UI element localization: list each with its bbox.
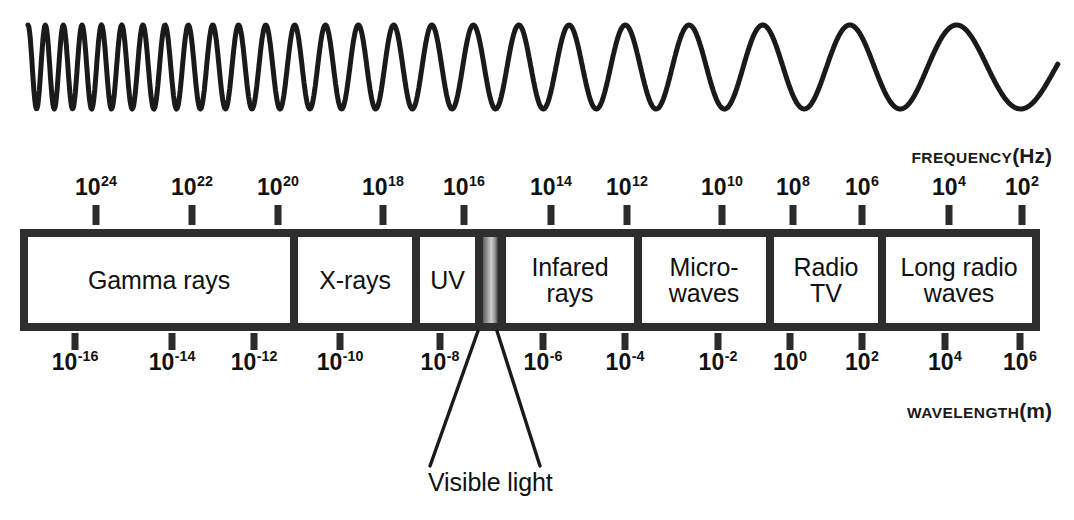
tick-exponent: 4	[954, 348, 962, 364]
wavelength-tick-label: 102	[845, 351, 879, 374]
tick-mantissa: 10	[606, 174, 632, 200]
frequency-tick-mark	[461, 205, 468, 225]
frequency-tick-label: 1016	[443, 176, 485, 199]
tick-mantissa: 10	[257, 174, 283, 200]
tick-mantissa: 10	[75, 174, 101, 200]
frequency-tick-label: 1018	[362, 176, 404, 199]
frequency-tick-mark	[548, 205, 555, 225]
tick-mantissa: 10	[928, 349, 954, 375]
tick-mantissa: 10	[606, 349, 632, 375]
band-long-radio-waves[interactable]: Long radiowaves	[878, 237, 1032, 323]
tick-exponent: -4	[632, 348, 645, 364]
tick-mantissa: 10	[231, 349, 257, 375]
tick-exponent: 14	[556, 173, 572, 189]
frequency-tick-mark	[275, 205, 282, 225]
band-label: Gamma rays	[86, 267, 232, 294]
tick-exponent: -14	[175, 348, 196, 364]
tick-mantissa: 10	[776, 174, 802, 200]
wavelength-tick-mark	[1017, 333, 1024, 350]
wavelength-tick-label: 10-4	[606, 351, 645, 374]
tick-exponent: 16	[469, 173, 485, 189]
wavelength-tick-mark	[942, 333, 949, 350]
tick-mantissa: 10	[52, 349, 78, 375]
frequency-tick-mark	[790, 205, 797, 225]
tick-mantissa: 10	[699, 349, 725, 375]
frequency-tick-label: 104	[932, 176, 966, 199]
band-label: UV	[428, 267, 467, 294]
wavelength-tick-label: 100	[773, 351, 807, 374]
wavelength-tick-mark	[622, 333, 629, 350]
frequency-tick-label: 1022	[171, 176, 213, 199]
tick-exponent: 4	[958, 173, 966, 189]
band-gamma-rays[interactable]: Gamma rays	[28, 237, 290, 323]
band-label: RadioTV	[792, 254, 861, 307]
band-visible-light[interactable]	[475, 237, 498, 323]
tick-mantissa: 10	[530, 174, 556, 200]
tick-exponent: 2	[871, 348, 879, 364]
frequency-tick-mark	[93, 205, 100, 225]
tick-mantissa: 10	[317, 349, 343, 375]
frequency-tick-label: 106	[845, 176, 879, 199]
tick-exponent: -16	[78, 348, 99, 364]
tick-mantissa: 10	[1005, 174, 1031, 200]
wavelength-caption-unit: (m)	[1019, 399, 1052, 422]
tick-mantissa: 10	[421, 349, 447, 375]
wavelength-tick-label: 10-2	[699, 351, 738, 374]
wavelength-tick-label: 10-6	[524, 351, 563, 374]
wavelength-tick-label: 10-16	[52, 351, 99, 374]
wavelength-caption-word: WAVELENGTH	[907, 404, 1019, 421]
frequency-tick-label: 1012	[606, 176, 648, 199]
tick-exponent: 2	[1031, 173, 1039, 189]
tick-mantissa: 10	[701, 174, 727, 200]
wavelength-tick-label: 10-10	[317, 351, 364, 374]
frequency-tick-label: 1020	[257, 176, 299, 199]
wavelength-tick-label: 106	[1003, 351, 1037, 374]
tick-exponent: 0	[799, 348, 807, 364]
tick-exponent: -10	[343, 348, 364, 364]
frequency-axis-caption: FREQUENCY(Hz)	[911, 144, 1052, 168]
frequency-tick-mark	[719, 205, 726, 225]
frequency-tick-mark	[189, 205, 196, 225]
tick-exponent: 18	[388, 173, 404, 189]
tick-exponent: 6	[871, 173, 879, 189]
band-x-rays[interactable]: X-rays	[290, 237, 412, 323]
frequency-tick-label: 108	[776, 176, 810, 199]
visible-light-label: Visible light	[428, 468, 553, 497]
tick-exponent: 10	[727, 173, 743, 189]
frequency-tick-label: 102	[1005, 176, 1039, 199]
tick-mantissa: 10	[524, 349, 550, 375]
frequency-tick-mark	[859, 205, 866, 225]
band-infrared-rays[interactable]: Infaredrays	[498, 237, 634, 323]
tick-exponent: -8	[447, 348, 460, 364]
frequency-tick-label: 1014	[530, 176, 572, 199]
band-ultraviolet[interactable]: UV	[412, 237, 475, 323]
tick-exponent: -2	[725, 348, 738, 364]
frequency-tick-label: 1010	[701, 176, 743, 199]
wavelength-tick-label: 104	[928, 351, 962, 374]
band-radio-tv[interactable]: RadioTV	[766, 237, 878, 323]
frequency-tick-mark	[624, 205, 631, 225]
tick-exponent: 12	[632, 173, 648, 189]
tick-exponent: 22	[197, 173, 213, 189]
band-microwaves[interactable]: Micro-waves	[634, 237, 766, 323]
frequency-tick-label: 1024	[75, 176, 117, 199]
wavelength-tick-label: 10-8	[421, 351, 460, 374]
tick-exponent: 6	[1029, 348, 1037, 364]
wavelength-tick-mark	[787, 333, 794, 350]
frequency-tick-mark	[380, 205, 387, 225]
band-label: X-rays	[317, 267, 393, 294]
tick-mantissa: 10	[443, 174, 469, 200]
tick-mantissa: 10	[1003, 349, 1029, 375]
tick-exponent: 8	[802, 173, 810, 189]
band-label: Long radiowaves	[898, 254, 1019, 307]
figure-canvas: FREQUENCY(Hz) 10241022102010181016101410…	[0, 0, 1074, 520]
tick-mantissa: 10	[149, 349, 175, 375]
spectrum-bar: Gamma raysX-raysUVInfaredraysMicro-waves…	[20, 229, 1040, 331]
band-label: Infaredrays	[529, 254, 610, 307]
tick-exponent: -6	[550, 348, 563, 364]
wavelength-axis-caption: WAVELENGTH(m)	[907, 399, 1052, 423]
tick-mantissa: 10	[932, 174, 958, 200]
wavelength-tick-label: 10-14	[149, 351, 196, 374]
wavelength-tick-mark	[540, 333, 547, 350]
wavelength-tick-mark	[715, 333, 722, 350]
